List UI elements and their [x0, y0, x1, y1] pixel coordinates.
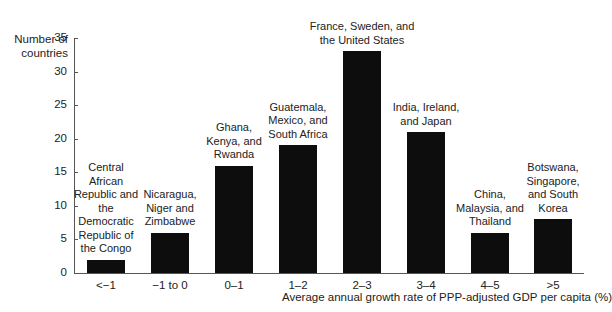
- bar-annotation: France, Sweden, and the United States: [307, 20, 417, 47]
- y-tick-mark: [74, 72, 78, 73]
- y-tick-label: 15: [47, 165, 67, 177]
- bar: [151, 233, 189, 273]
- y-tick-mark: [74, 105, 78, 106]
- y-tick-label: 25: [47, 98, 67, 110]
- x-tick-label: 3–4: [394, 279, 458, 291]
- bar: [343, 51, 381, 273]
- bar-annotation: Nicaragua, Niger and Zimbabwe: [130, 188, 210, 229]
- x-tick-label: >5: [521, 279, 585, 291]
- x-tick-label: −1 to 0: [138, 279, 202, 291]
- x-tick-label: 4–5: [458, 279, 522, 291]
- y-tick-label: 5: [47, 232, 67, 244]
- x-tick-label: 0–1: [202, 279, 266, 291]
- bar: [534, 219, 572, 273]
- y-tick-mark: [74, 38, 78, 39]
- bar: [279, 145, 317, 273]
- bar: [215, 166, 253, 273]
- y-tick-label: 20: [47, 132, 67, 144]
- y-tick-mark: [74, 139, 78, 140]
- y-tick-label: 30: [47, 65, 67, 77]
- x-tick-label: 1–2: [266, 279, 330, 291]
- bar-annotation: Botswana, Singapore, and South Korea: [518, 161, 588, 215]
- y-tick-label: 0: [47, 266, 67, 278]
- bar: [87, 260, 125, 273]
- x-axis-line: [74, 273, 584, 274]
- x-axis-label: Average annual growth rate of PPP-adjust…: [282, 291, 612, 303]
- x-tick-label: <−1: [74, 279, 138, 291]
- bar: [407, 132, 445, 273]
- bar-annotation: Guatemala, Mexico, and South Africa: [258, 101, 338, 142]
- y-tick-label: 10: [47, 199, 67, 211]
- x-tick-label: 2–3: [330, 279, 394, 291]
- bar: [471, 233, 509, 273]
- bar-annotation: India, Ireland, and Japan: [386, 101, 466, 128]
- y-tick-label: 35: [47, 31, 67, 43]
- y-tick-mark: [74, 273, 78, 274]
